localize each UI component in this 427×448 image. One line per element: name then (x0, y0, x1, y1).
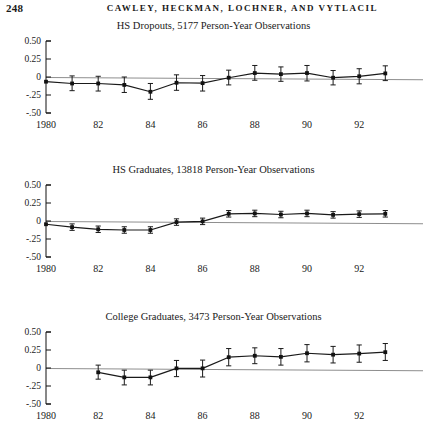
page: 248 CAWLEY, HECKMAN, LOCHNER, AND VYTLAC… (0, 0, 427, 448)
x-axis-tick-label: 82 (93, 410, 103, 421)
y-axis-tick-label: -.25 (26, 90, 41, 100)
x-axis-tick-label: 86 (198, 263, 208, 274)
x-axis-tick-label: 1980 (36, 119, 56, 130)
y-axis-tick-label: -.50 (26, 108, 41, 118)
y-axis-tick-label: 0.25 (24, 198, 41, 208)
y-axis-tick-label: 0.50 (24, 327, 41, 337)
data-series-line (98, 352, 385, 377)
x-axis-tick-label: 82 (93, 263, 103, 274)
y-axis-tick-label: 0.50 (24, 180, 41, 190)
x-axis-tick-label: 88 (250, 410, 260, 421)
y-axis-tick-label: 0.50 (24, 36, 41, 46)
error-bars (70, 65, 388, 99)
error-bars (96, 344, 388, 385)
x-axis-tick-label: 86 (198, 410, 208, 421)
x-axis-tick-label: 84 (145, 263, 155, 274)
chart-title: HS Graduates, 13818 Person-Year Observat… (0, 164, 427, 175)
y-axis-tick-label: 0 (36, 216, 41, 226)
chart-title: College Graduates, 3473 Person-Year Obse… (0, 311, 427, 322)
x-axis-tick-label: 92 (354, 119, 364, 130)
x-axis-tick-label: 90 (302, 263, 312, 274)
y-axis-tick-label: -.50 (26, 399, 41, 409)
chart-panel-hs-graduates: HS Graduates, 13818 Person-Year Observat… (0, 164, 427, 293)
y-axis-tick-label: -.25 (26, 234, 41, 244)
x-axis-tick-label: 84 (145, 119, 155, 130)
chart-plot-area: 0.500.250-.25-.501980828486889092 (0, 31, 427, 149)
chart-plot-area: 0.500.250-.25-.501980828486889092 (0, 322, 427, 440)
x-axis-tick-label: 90 (302, 410, 312, 421)
line-chart-svg: 0.500.250-.25-.501980828486889092 (0, 175, 427, 293)
x-axis-tick-label: 1980 (36, 410, 56, 421)
chart-panel-college-graduates: College Graduates, 3473 Person-Year Obse… (0, 311, 427, 440)
x-axis-tick-label: 86 (198, 119, 208, 130)
x-axis-tick-label: 88 (250, 263, 260, 274)
x-axis-tick-label: 90 (302, 119, 312, 130)
y-axis-tick-label: 0 (36, 363, 41, 373)
y-axis-tick-label: -.25 (26, 381, 41, 391)
running-head: 248 CAWLEY, HECKMAN, LOCHNER, AND VYTLAC… (0, 0, 427, 18)
chart-panel-hs-dropouts: HS Dropouts, 5177 Person-Year Observatio… (0, 20, 427, 149)
y-axis-tick-label: 0 (36, 72, 41, 82)
running-head-authors: CAWLEY, HECKMAN, LOCHNER, AND VYTLACIL (0, 3, 427, 13)
chart-plot-area: 0.500.250-.25-.501980828486889092 (0, 175, 427, 293)
line-chart-svg: 0.500.250-.25-.501980828486889092 (0, 322, 427, 440)
line-chart-svg: 0.500.250-.25-.501980828486889092 (0, 31, 427, 149)
y-axis-tick-label: -.50 (26, 252, 41, 262)
x-axis-tick-label: 92 (354, 410, 364, 421)
x-axis-tick-label: 82 (93, 119, 103, 130)
chart-title: HS Dropouts, 5177 Person-Year Observatio… (0, 20, 427, 31)
data-point-markers (44, 71, 387, 94)
x-axis-tick-label: 1980 (36, 263, 56, 274)
x-axis-tick-label: 92 (354, 263, 364, 274)
x-axis-tick-label: 84 (145, 410, 155, 421)
y-axis-tick-label: 0.25 (24, 54, 41, 64)
x-axis-tick-label: 88 (250, 119, 260, 130)
y-axis-tick-label: 0.25 (24, 345, 41, 355)
